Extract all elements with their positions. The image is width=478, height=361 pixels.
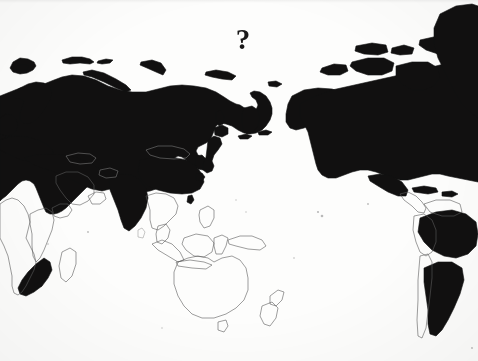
region-argentina	[424, 262, 464, 336]
region-sumatra-outline	[152, 240, 184, 262]
region-madagascar-outline	[59, 248, 76, 282]
region-java-outline	[176, 260, 212, 269]
region-sulawesi-outline	[214, 235, 228, 254]
region-east-africa-outline	[30, 208, 54, 262]
region-victoria-island	[350, 58, 394, 75]
region-arctic-island-small-b	[355, 43, 388, 55]
screenshot-canvas: ?	[0, 0, 478, 361]
region-arctic-island-small-a	[320, 64, 348, 75]
region-tasmania-outline	[218, 320, 228, 332]
region-taiwan	[187, 195, 194, 204]
question-mark-annotation: ?	[230, 24, 256, 56]
region-new-zealand-north-outline	[270, 290, 284, 306]
region-hokkaido	[214, 125, 228, 137]
region-brazil	[418, 210, 478, 258]
speck	[161, 327, 162, 328]
region-new-zealand-south-outline	[260, 302, 278, 326]
speck	[321, 215, 324, 218]
region-papua-new-guinea-outline	[228, 236, 266, 250]
speck	[47, 243, 49, 245]
speck	[317, 211, 319, 213]
speck	[245, 211, 246, 212]
region-new-siberian-islands	[205, 70, 236, 80]
region-arctic-island-small-c	[391, 45, 414, 55]
region-australia-outline	[174, 256, 248, 318]
speck	[367, 203, 369, 205]
region-philippines-outline	[199, 206, 214, 228]
speck	[235, 199, 236, 200]
region-aleutian-islands	[238, 134, 252, 139]
region-svalbard	[62, 57, 94, 64]
scan-specks	[47, 199, 473, 349]
region-severnaya-zemlya	[140, 60, 166, 75]
region-indochina-outline	[146, 193, 178, 230]
region-cuba	[412, 186, 438, 194]
region-borneo-outline	[182, 234, 214, 257]
region-franz-josef-land	[97, 59, 113, 64]
region-hispaniola	[442, 191, 458, 197]
speck	[471, 347, 473, 349]
region-iceland	[10, 58, 36, 74]
region-sri-lanka-outline	[138, 228, 145, 238]
speck	[293, 257, 295, 259]
region-india	[109, 174, 148, 231]
region-wrangel-island	[268, 81, 282, 87]
speck	[87, 231, 89, 233]
